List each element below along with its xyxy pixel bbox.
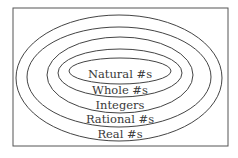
label-real: Real #s — [97, 127, 142, 141]
label-natural: Natural #s — [88, 67, 152, 81]
label-whole: Whole #s — [92, 83, 148, 97]
number-sets-diagram: Natural #s Whole #s Integers Rational #s… — [0, 0, 238, 158]
label-rational: Rational #s — [86, 112, 154, 126]
label-integers: Integers — [96, 98, 145, 112]
